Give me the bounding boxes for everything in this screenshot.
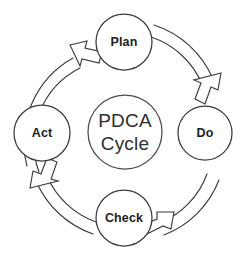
node-do[interactable]: Do [178,106,232,160]
node-check-label: Check [105,211,143,225]
node-check[interactable]: Check [96,190,152,246]
node-plan-label: Plan [111,35,138,49]
pdca-cycle-diagram: Plan Do Check Act PDCA Cycle [0,0,246,257]
center-hub-line2: Cycle [101,133,150,154]
arrow-plan-to-do-inner-line [151,37,202,84]
node-do-label: Do [197,126,214,140]
arrow-check-to-act-head [30,158,58,188]
arrow-plan-to-do [151,25,221,104]
pdca-diagram-canvas: Plan Do Check Act PDCA Cycle [0,0,246,257]
arrow-plan-to-do-head [194,73,221,104]
arrow-check-to-act [30,158,96,234]
arrow-check-to-act-inner-line [47,176,96,222]
node-act[interactable]: Act [14,105,70,161]
center-hub: PDCA Cycle [88,95,162,169]
arrow-do-to-check [147,174,219,235]
center-hub-line1: PDCA [98,110,152,131]
arrow-check-to-act-outer-line [36,181,93,234]
center-hub-circle [88,95,162,169]
node-plan[interactable]: Plan [96,14,152,70]
arrow-do-to-check-outer-line [164,180,219,235]
arrow-plan-to-do-outer-line [154,25,213,79]
node-act-label: Act [32,126,53,140]
